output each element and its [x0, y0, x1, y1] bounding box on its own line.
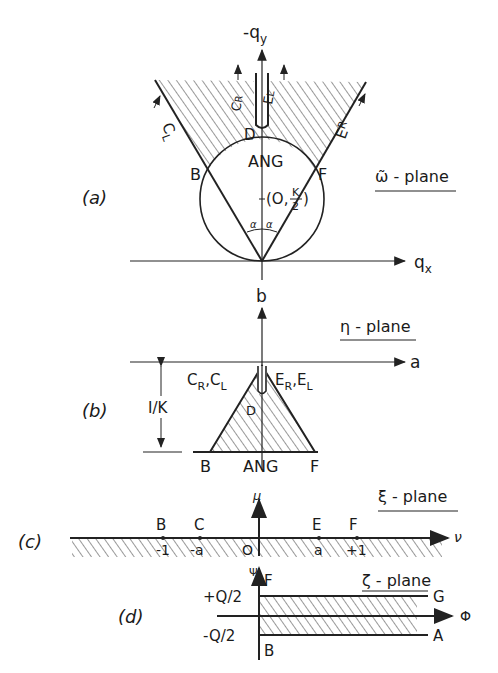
plane-label-eta: η - plane — [340, 317, 410, 336]
point-D: D — [244, 126, 256, 144]
point-A: A — [433, 627, 444, 645]
plane-label-zeta: ζ - plane — [362, 571, 431, 590]
point-F: F — [318, 165, 327, 184]
panel-d-zeta-plane: ζ - plane Ψ Φ +Q/2 -Q/2 F B G A (d) — [118, 566, 471, 660]
panel-b-eta-plane: b a η - plane (b) I/K CR,CL ER,EL D B AN… — [82, 286, 420, 476]
point-B-d: B — [264, 642, 274, 660]
value-minus-a: -a — [190, 542, 204, 558]
panel-tag-d: (d) — [118, 606, 143, 627]
point-G: G — [433, 588, 445, 606]
point-D-b: D — [246, 403, 256, 418]
label-minus-Q2: -Q/2 — [203, 627, 235, 645]
label-ANG-b: ANG — [243, 457, 278, 476]
panel-c-xi-plane: μ ν ξ - plane (c) B C E F -1 -a O a +1 — [18, 487, 462, 558]
value-a: a — [314, 542, 323, 558]
label-ER-EL: ER,EL — [275, 371, 313, 393]
panel-tag-a: (a) — [82, 187, 107, 208]
point-E-c: E — [312, 516, 321, 534]
edge-label-CL: CL — [155, 120, 181, 144]
point-B-c: B — [156, 516, 166, 534]
axis-label-phi: Φ — [460, 608, 471, 624]
point-F-c: F — [349, 516, 358, 534]
axis-label-qx: qx — [414, 252, 432, 276]
conformal-mapping-diagram: -qy qx (a) ω̃ - plane ANG B F D (O, K 2 … — [0, 0, 498, 673]
angle-alpha-right: α — [266, 219, 273, 230]
svg-text:2: 2 — [292, 200, 299, 213]
hatched-halfplane — [72, 539, 442, 557]
plane-label-omega: ω̃ - plane — [375, 167, 449, 186]
value-plus-1: +1 — [346, 542, 367, 558]
axis-label-neg-qy: -qy — [243, 22, 267, 46]
value-minus-1: -1 — [156, 542, 170, 558]
point-C-c: C — [194, 516, 204, 534]
height-label: I/K — [148, 399, 168, 417]
angle-alpha-left: α — [250, 219, 257, 230]
axis-label-mu: μ — [252, 488, 261, 503]
label-plus-Q2: +Q/2 — [203, 588, 242, 606]
svg-text:K: K — [292, 186, 300, 199]
plane-label-xi: ξ - plane — [378, 487, 447, 506]
panel-a-omega-plane: -qy qx (a) ω̃ - plane ANG B F D (O, K 2 … — [82, 22, 456, 280]
region-label-ANG: ANG — [248, 152, 283, 171]
point-F-d: F — [264, 572, 273, 590]
panel-tag-c: (c) — [18, 531, 42, 552]
point-B-b: B — [200, 457, 211, 476]
axis-label-psi: Ψ — [249, 566, 258, 579]
center-label: (O, — [266, 190, 288, 208]
point-F-b: F — [310, 457, 319, 476]
value-origin: O — [242, 542, 253, 558]
point-B: B — [190, 165, 201, 184]
panel-tag-b: (b) — [82, 400, 107, 421]
axis-label-b: b — [256, 286, 267, 306]
label-CR-CL: CR,CL — [187, 371, 227, 393]
svg-text:): ) — [303, 190, 309, 208]
axis-label-a: a — [410, 352, 420, 372]
axis-label-nu: ν — [454, 529, 462, 545]
